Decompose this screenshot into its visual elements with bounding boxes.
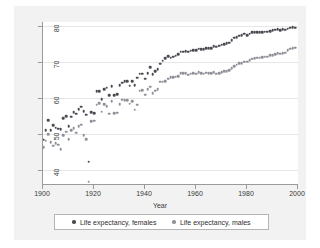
x-tick-label-2000: 2000	[289, 190, 305, 197]
x-tick-label-1940: 1940	[136, 190, 152, 197]
x-tick-1960	[195, 185, 196, 189]
data-point	[85, 138, 88, 141]
data-point	[159, 62, 162, 65]
y-tick-50	[38, 134, 42, 135]
data-point	[111, 85, 114, 88]
data-point	[88, 181, 91, 184]
data-point	[65, 131, 68, 134]
data-point	[146, 72, 149, 75]
data-point	[67, 125, 70, 128]
data-point	[62, 134, 65, 137]
data-point	[98, 90, 101, 93]
data-point	[93, 119, 96, 122]
data-point	[83, 134, 86, 137]
y-tick-80	[38, 26, 42, 27]
data-point	[118, 103, 121, 106]
x-tick-2000	[297, 185, 298, 189]
data-point	[75, 113, 78, 116]
data-point	[177, 53, 180, 56]
data-point	[144, 78, 147, 81]
x-tick-label-1980: 1980	[238, 190, 254, 197]
data-point	[131, 80, 134, 83]
data-point	[141, 89, 144, 92]
chart-legend: Life expectancy, females Life expectancy…	[54, 214, 269, 230]
data-point	[126, 80, 129, 83]
data-point	[49, 129, 52, 132]
x-tick-1980	[246, 185, 247, 189]
data-point	[70, 115, 73, 118]
data-point	[134, 109, 137, 112]
data-point	[136, 77, 139, 80]
data-point	[128, 84, 131, 87]
y-tick-label-80: 80	[53, 24, 60, 44]
y-tick-label-50: 50	[53, 132, 60, 152]
data-point	[116, 111, 119, 114]
data-point	[44, 129, 47, 132]
data-point	[72, 127, 75, 130]
data-point	[80, 123, 83, 126]
y-tick-label-70: 70	[53, 60, 60, 80]
data-point	[85, 113, 88, 116]
data-point	[100, 110, 103, 113]
data-point	[230, 39, 233, 42]
data-point	[98, 102, 101, 105]
data-point	[80, 105, 83, 108]
data-point	[108, 94, 111, 97]
legend-marker-females-icon	[72, 220, 76, 224]
data-point	[131, 100, 134, 103]
data-point	[83, 110, 86, 113]
data-point	[60, 148, 63, 151]
x-tick-label-1900: 1900	[34, 190, 50, 197]
x-tick-1940	[144, 185, 145, 189]
gridline-y-80	[43, 26, 298, 27]
y-tick-label-60: 60	[53, 96, 60, 116]
data-point	[105, 87, 108, 90]
plot-area-frame	[42, 22, 298, 185]
data-point	[156, 68, 159, 71]
data-point	[65, 115, 68, 118]
data-point	[47, 119, 50, 122]
scatter-plot-canvas	[43, 22, 298, 184]
gridline-y-40	[43, 170, 298, 171]
gridline-y-60	[43, 98, 298, 99]
x-tick-1920	[93, 185, 94, 189]
data-point	[149, 66, 152, 69]
legend-label-males: Life expectancy, males	[180, 219, 251, 226]
data-point	[111, 100, 114, 103]
data-point	[294, 26, 297, 29]
data-point	[151, 73, 154, 76]
data-point	[44, 140, 47, 143]
data-point	[294, 46, 297, 49]
data-point	[93, 112, 96, 115]
legend-marker-males-icon	[172, 220, 176, 224]
data-point	[126, 99, 129, 102]
data-point	[47, 133, 50, 136]
data-point	[108, 113, 111, 116]
data-point	[144, 93, 147, 96]
x-tick-1900	[42, 185, 43, 189]
data-point	[141, 73, 144, 76]
data-point	[100, 98, 103, 101]
data-point	[134, 84, 137, 87]
gridline-y-50	[43, 134, 298, 135]
data-point	[149, 86, 152, 89]
y-tick-label-40: 40	[53, 168, 60, 188]
y-tick-70	[38, 62, 42, 63]
legend-entry-males[interactable]: Life expectancy, males	[172, 219, 250, 226]
data-point	[116, 93, 119, 96]
x-tick-label-1920: 1920	[85, 190, 101, 197]
data-point	[156, 88, 159, 91]
data-point	[75, 131, 78, 134]
data-point	[128, 102, 131, 105]
data-point	[177, 75, 180, 78]
y-tick-40	[38, 170, 42, 171]
x-tick-label-1960: 1960	[187, 190, 203, 197]
data-point	[151, 92, 154, 95]
y-tick-60	[38, 98, 42, 99]
data-point	[77, 108, 80, 111]
x-axis-title: Year	[14, 202, 306, 209]
data-point	[105, 105, 108, 108]
data-point	[136, 104, 139, 107]
legend-entry-females[interactable]: Life expectancy, females	[72, 219, 156, 226]
chart-figure: 4050607080 190019201940196019802000 Year…	[14, 6, 306, 240]
